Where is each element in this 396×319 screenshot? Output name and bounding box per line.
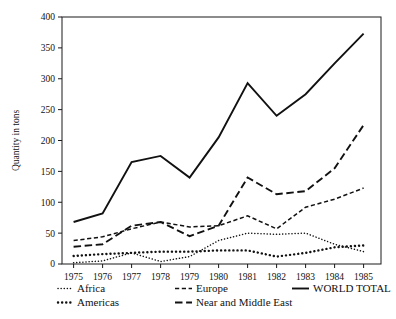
y-axis-title: Quantity in tons bbox=[11, 110, 21, 172]
legend-label: Near and Middle East bbox=[196, 296, 292, 308]
legend-label: Europe bbox=[196, 282, 228, 294]
y-tick-label: 0 bbox=[50, 259, 55, 269]
legend-item-world-total: WORLD TOTAL bbox=[292, 282, 391, 294]
legend-label: Africa bbox=[77, 282, 105, 294]
legend-item-europe: Europe bbox=[175, 282, 228, 294]
series-line-europe bbox=[74, 188, 364, 240]
line-chart: 050100150200250300350400 197519761977197… bbox=[0, 0, 396, 319]
x-tick-label: 1984 bbox=[325, 272, 344, 282]
series-line-world-total bbox=[74, 34, 364, 222]
legend-label: WORLD TOTAL bbox=[313, 282, 391, 294]
chart-canvas: 050100150200250300350400 197519761977197… bbox=[0, 0, 396, 319]
y-axis-title-text: Quantity in tons bbox=[11, 110, 21, 172]
chart-legend: AfricaEuropeWORLD TOTALAmericasNear and … bbox=[58, 282, 391, 308]
y-tick-label: 250 bbox=[41, 105, 56, 115]
x-tick-label: 1980 bbox=[209, 272, 228, 282]
legend-item-africa: Africa bbox=[58, 282, 105, 294]
y-tick-label: 50 bbox=[46, 229, 56, 239]
y-tick-label: 300 bbox=[41, 74, 56, 84]
plot-frame bbox=[62, 17, 381, 264]
x-tick-label: 1982 bbox=[267, 272, 286, 282]
series-line-americas bbox=[74, 245, 364, 256]
y-axis-ticks: 050100150200250300350400 bbox=[41, 12, 62, 269]
y-tick-label: 200 bbox=[41, 136, 56, 146]
x-tick-label: 1978 bbox=[151, 272, 170, 282]
x-tick-label: 1983 bbox=[296, 272, 315, 282]
x-tick-label: 1981 bbox=[238, 272, 257, 282]
x-tick-label: 1976 bbox=[93, 272, 112, 282]
y-tick-label: 350 bbox=[41, 43, 56, 53]
plot-border bbox=[62, 17, 381, 264]
y-tick-label: 400 bbox=[41, 12, 56, 22]
legend-item-near-and-middle-east: Near and Middle East bbox=[175, 296, 292, 308]
x-tick-label: 1979 bbox=[180, 272, 199, 282]
x-tick-label: 1977 bbox=[122, 272, 141, 282]
y-tick-label: 150 bbox=[41, 167, 56, 177]
legend-item-americas: Americas bbox=[58, 296, 119, 308]
series-lines bbox=[74, 34, 364, 263]
legend-label: Americas bbox=[77, 296, 119, 308]
x-tick-label: 1975 bbox=[64, 272, 83, 282]
x-tick-label: 1985 bbox=[354, 272, 373, 282]
y-tick-label: 100 bbox=[41, 198, 56, 208]
series-line-africa bbox=[74, 233, 364, 263]
x-axis-ticks: 1975197619771978197919801981198219831984… bbox=[64, 264, 373, 282]
